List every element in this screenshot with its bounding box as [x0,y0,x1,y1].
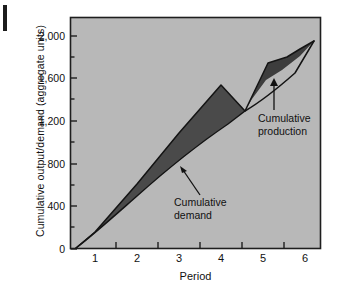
cumulative-demand-label: Cumulative demand [174,196,227,221]
plot-area [0,0,340,296]
chart-figure: Cumulative output/demand (aggregate unit… [0,0,340,296]
cumulative-production-label: Cumulative production [258,112,311,137]
